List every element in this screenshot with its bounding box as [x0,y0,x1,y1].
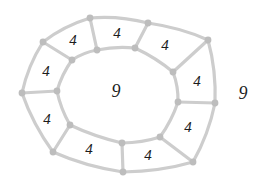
graph-vertex [94,47,101,54]
graph-vertex [205,37,212,44]
graph-edge-outer [43,18,90,42]
outer-face-label: 9 [239,83,248,103]
graph-edge-outer [22,42,43,93]
quad-face-label: 4 [193,73,201,89]
graph-vertex [212,100,219,107]
graph-vertex [67,122,74,129]
quad-face-label: 4 [85,141,93,157]
graph-vertex [170,69,177,76]
graph-spoke [90,18,97,50]
quad-face-label: 4 [113,25,121,41]
graph-spoke [173,40,208,72]
graph-vertex [69,57,76,64]
quad-face-label: 4 [161,37,169,53]
quad-face-label: 4 [69,32,77,48]
graph-edge-inner [122,137,160,143]
graph-edge-inner [70,125,122,143]
graph-vertex [119,140,126,147]
graph-spoke [22,91,57,93]
graph-edge-inner [160,102,178,137]
graph-vertex [175,99,182,106]
graph-svg: 44444444499 [0,0,266,192]
graph-vertex [54,88,61,95]
graph-vertex [50,149,57,156]
graph-edge-inner [97,47,135,50]
graph-spoke [135,23,148,48]
graph-vertex [190,159,197,166]
graph-edge-outer [148,23,208,40]
graph-edge-inner [57,60,72,91]
graph-spoke [53,125,70,152]
quad-face-label: 4 [43,111,51,127]
graph-edge-outer [193,103,215,162]
graph-edge-inner [57,91,70,125]
graph-vertex [19,90,26,97]
graph-figure: 44444444499 [0,0,266,192]
graph-vertex [40,39,47,46]
quad-face-label: 4 [144,147,152,163]
graph-edge-outer [208,40,215,103]
quad-face-label: 4 [42,63,50,79]
graph-edge-inner [173,72,178,102]
graph-vertex [157,134,164,141]
graph-edge-outer [123,162,193,172]
graph-spoke [43,42,72,60]
graph-vertex [120,169,127,176]
inner-face-label: 9 [112,81,121,101]
quad-face-label: 4 [184,119,192,135]
graph-vertex [87,15,94,22]
graph-edge-outer [90,17,148,23]
graph-spoke [178,102,215,103]
graph-vertex [145,20,152,27]
graph-spoke [122,143,123,172]
graph-edge-inner [72,50,97,60]
graph-vertex [132,45,139,52]
graph-spoke [160,137,193,162]
